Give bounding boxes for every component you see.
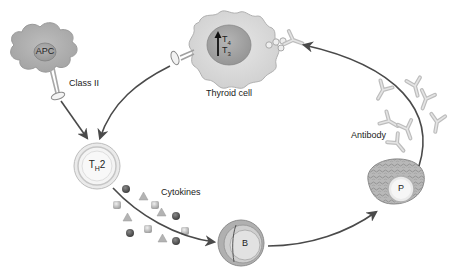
- class-ii-receptor: [50, 68, 66, 101]
- thyroid-cell-label: Thyroid cell: [206, 88, 252, 98]
- class-ii-label: Class II: [69, 78, 99, 88]
- plasma-cell: [368, 159, 424, 204]
- plasma-cell-label: P: [394, 183, 408, 193]
- hormone-t3-label: T3: [222, 45, 231, 57]
- apc-label: APC: [33, 46, 57, 56]
- thyroid-cell: [189, 11, 279, 88]
- bound-antibody-icon: [284, 31, 305, 50]
- arrow-thyroid-to-th2: [100, 66, 170, 138]
- antibody-label: Antibody: [351, 130, 386, 140]
- th2-label: TH2: [81, 159, 113, 172]
- arrow-apc-to-th2: [61, 101, 87, 138]
- arrow-b-cell-to-plasma: [268, 212, 376, 246]
- cytokines-label: Cytokines: [161, 187, 201, 197]
- graves-disease-diagram: APC Class II T4 T3 Thyroid cell TH2 Cyto…: [0, 0, 456, 279]
- antibody-cluster: [372, 77, 445, 155]
- arrow-plasma-to-thyroid: [304, 45, 423, 166]
- b-cell-label: B: [238, 238, 252, 248]
- thyroid-left-receptor: [169, 50, 194, 66]
